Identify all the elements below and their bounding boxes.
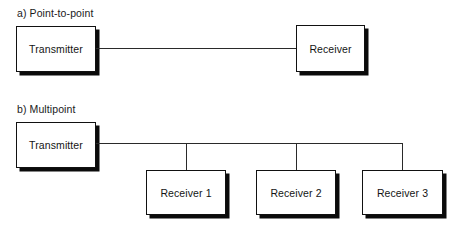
node-transmitter-b: Transmitter xyxy=(16,122,96,168)
node-receiver-2-label: Receiver 2 xyxy=(270,187,321,199)
node-receiver-1-label: Receiver 1 xyxy=(160,187,211,199)
drop-line-receiver-3 xyxy=(402,143,403,171)
link-transmitter-a-to-receiver-a xyxy=(96,48,296,49)
node-receiver-3-label: Receiver 3 xyxy=(377,187,428,199)
node-transmitter-a: Transmitter xyxy=(16,26,96,72)
drop-line-receiver-1 xyxy=(186,143,187,171)
drop-line-receiver-2 xyxy=(296,143,297,171)
panel-b-label: b) Multipoint xyxy=(17,103,76,115)
node-receiver-3: Receiver 3 xyxy=(362,170,443,215)
node-receiver-a: Receiver xyxy=(296,25,365,72)
bus-line xyxy=(96,143,403,144)
node-receiver-2: Receiver 2 xyxy=(256,170,336,215)
node-receiver-1: Receiver 1 xyxy=(146,170,226,215)
diagram-canvas: a) Point-to-point Transmitter Receiver b… xyxy=(0,0,458,227)
node-transmitter-b-label: Transmitter xyxy=(29,139,83,151)
node-transmitter-a-label: Transmitter xyxy=(29,43,83,55)
panel-a-label: a) Point-to-point xyxy=(17,7,93,19)
node-receiver-a-label: Receiver xyxy=(309,43,351,55)
